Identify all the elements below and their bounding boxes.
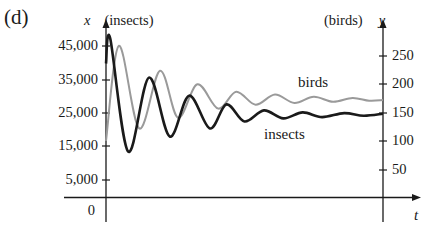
panel-label: (d) <box>4 7 29 28</box>
left-axis-title-text: (insects) <box>104 12 153 28</box>
birds-series-line <box>106 46 383 141</box>
left-axis-variable: x <box>84 12 90 28</box>
right-tick-label: 50 <box>392 162 407 177</box>
insects-series-line <box>106 35 383 152</box>
left-tick-label: 35,000 <box>58 72 98 87</box>
right-axis-variable: y <box>379 12 385 28</box>
right-tick-label: 250 <box>392 48 414 63</box>
right-axis-title: (birds)y <box>324 13 385 28</box>
left-tick-label: 25,000 <box>58 105 98 120</box>
t-axis-label: t <box>414 208 418 223</box>
right-tick-label: 150 <box>392 105 414 120</box>
origin-label: 0 <box>88 203 95 218</box>
insects-series-label: insects <box>264 127 305 142</box>
t-axis-arrow-icon <box>412 194 421 201</box>
left-tick-label: 5,000 <box>65 172 98 187</box>
right-tick-label: 200 <box>392 76 414 91</box>
left-tick-label: 45,000 <box>58 38 98 53</box>
left-tick-label: 15,000 <box>58 138 98 153</box>
right-axis-title-text: (birds) <box>324 12 363 28</box>
left-axis-title: x(insects) <box>84 13 154 28</box>
right-tick-label: 100 <box>392 133 414 148</box>
birds-series-label: birds <box>298 75 328 90</box>
